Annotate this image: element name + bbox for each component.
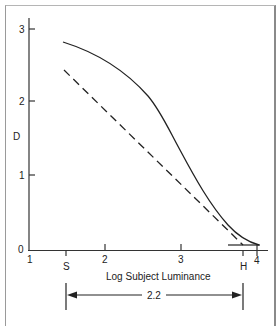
range-label: 2.2 <box>147 290 161 301</box>
right-arrow-icon <box>232 292 242 299</box>
y-ticks <box>29 29 35 175</box>
x-tick-label: 2 <box>102 254 108 265</box>
y-tick-label: 1 <box>19 170 25 181</box>
left-arrow-icon <box>67 292 77 299</box>
x-axis-label: Log Subject Luminance <box>106 271 211 282</box>
h-marker-label: H <box>240 261 247 272</box>
s-marker-label: S <box>63 261 70 272</box>
x-tick-label: 1 <box>27 254 33 265</box>
y-axis-label: D <box>13 131 20 142</box>
solid-density-curve <box>63 42 259 245</box>
dashed-line <box>64 70 243 245</box>
y-tick-label: 2 <box>19 96 25 107</box>
x-tick-label: 3 <box>178 254 184 265</box>
y-tick-label: 0 <box>18 244 24 255</box>
y-tick-label: 3 <box>19 24 25 35</box>
x-tick-label: 4 <box>254 255 260 266</box>
